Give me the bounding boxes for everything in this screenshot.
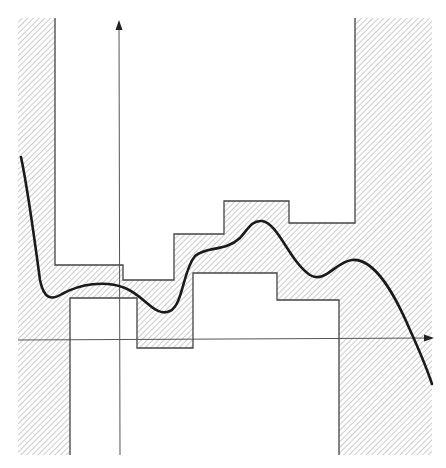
envelope-diagram [0, 0, 446, 468]
lower-envelope [70, 273, 339, 455]
upper-hatched-region [18, 18, 432, 455]
y-axis [119, 22, 120, 455]
